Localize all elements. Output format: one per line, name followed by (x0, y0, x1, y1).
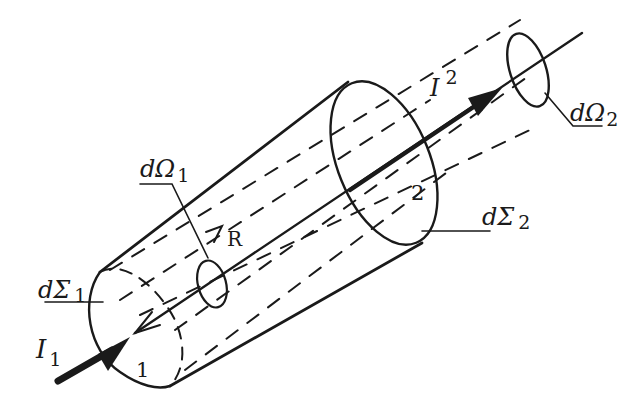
label-surface-2: 2 (411, 181, 424, 205)
d-omega-1-ellipse (192, 257, 231, 311)
beam-tube-diagram: dΣ1 I1 1 dΩ1 R 2 dΣ2 I2 dΩ2 (0, 0, 644, 414)
label-surface-1: 1 (136, 358, 149, 382)
d-omega-1-leader (140, 184, 208, 258)
label-d-omega-1: dΩ1 (140, 155, 189, 186)
label-i-1: I1 (35, 334, 61, 370)
back-arrowhead (135, 312, 160, 333)
surface-1-front-arc (89, 272, 170, 387)
label-i-2: I2 (429, 66, 458, 102)
tube-bottom-edge (170, 243, 422, 386)
label-r: R (227, 227, 243, 251)
label-d-sigma-1: dΣ1 (38, 276, 86, 306)
tube-top-edge (100, 82, 348, 272)
outgoing-beam-thick (350, 104, 478, 190)
i2-arrowhead (468, 88, 502, 116)
label-d-omega-2: dΩ2 (570, 99, 618, 130)
label-d-sigma-2: dΣ2 (482, 203, 530, 233)
